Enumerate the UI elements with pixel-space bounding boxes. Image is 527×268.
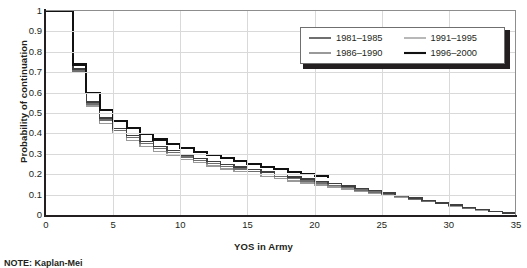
x-tick-label: 20 [300, 219, 330, 230]
chart-legend: 1981–19851991–19951986–19901996–2000 [300, 27, 505, 64]
gridline-horizontal [46, 93, 516, 94]
x-tick-label: 25 [367, 219, 397, 230]
legend-item[interactable]: 1981–1985 [309, 33, 404, 43]
y-tick-label: 0.2 [4, 169, 42, 179]
y-tick-label: 0.4 [4, 128, 42, 138]
chart-figure: Probability of continuation 10.90.80.70.… [0, 0, 527, 268]
legend-item[interactable]: 1991–1995 [404, 33, 499, 43]
y-axis-tick-labels: 10.90.80.70.60.50.40.30.20.10 [0, 0, 42, 226]
x-tick-label: 0 [31, 219, 61, 230]
y-tick-label: 0.3 [4, 149, 42, 159]
gridline-horizontal [46, 195, 516, 196]
x-tick-label: 30 [434, 219, 464, 230]
gridline-vertical [113, 11, 114, 215]
y-tick-label: 1 [4, 6, 42, 16]
legend-line-swatch [404, 34, 426, 42]
y-tick-label: 0.6 [4, 88, 42, 98]
figure-note: NOTE: Kaplan-Mei [4, 258, 524, 268]
legend-line-swatch [404, 49, 426, 57]
gridline-vertical [180, 11, 181, 215]
legend-item[interactable]: 1986–1990 [309, 48, 404, 58]
x-tick-label: 35 [501, 219, 527, 230]
legend-item[interactable]: 1996–2000 [404, 48, 499, 58]
gridline-horizontal [46, 174, 516, 175]
y-tick-label: 0.5 [4, 108, 42, 118]
legend-line-swatch [309, 49, 331, 57]
legend-label: 1991–1995 [431, 33, 478, 43]
y-tick-label: 0.9 [4, 26, 42, 36]
y-tick-label: 0.8 [4, 47, 42, 57]
y-axis-line [44, 9, 46, 217]
gridline-horizontal [46, 133, 516, 134]
x-tick-label: 10 [165, 219, 195, 230]
legend-label: 1986–1990 [336, 48, 383, 58]
plot-right-border [515, 11, 516, 215]
legend-label: 1981–1985 [336, 33, 383, 43]
x-tick-label: 5 [98, 219, 128, 230]
y-tick-label: 0.1 [4, 190, 42, 200]
gridline-horizontal [46, 113, 516, 114]
y-tick-label: 0.7 [4, 67, 42, 77]
gridline-vertical [247, 11, 248, 215]
plot-top-border [46, 10, 516, 11]
x-axis-title: YOS in Army [0, 241, 527, 252]
x-axis-line [44, 215, 517, 217]
legend-label: 1996–2000 [431, 48, 478, 58]
x-tick-label: 15 [232, 219, 262, 230]
legend-line-swatch [309, 34, 331, 42]
gridline-horizontal [46, 72, 516, 73]
gridline-horizontal [46, 154, 516, 155]
